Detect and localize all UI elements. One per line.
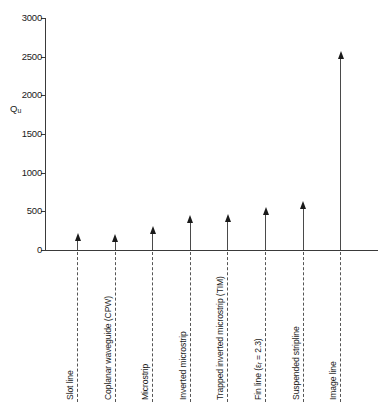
x-axis-line — [45, 250, 378, 251]
category-label-text-tail: = 2.3) — [253, 338, 263, 362]
category-label-subscript: r — [256, 362, 263, 364]
up-arrow-icon — [338, 51, 344, 59]
up-arrow-icon — [263, 207, 269, 215]
category-column: Inverted microstrip — [190, 0, 191, 408]
label-leader-line — [152, 252, 153, 402]
label-leader-line — [265, 252, 266, 402]
up-arrow-icon — [150, 226, 156, 234]
label-leader-line — [227, 252, 228, 402]
category-column: Trapped inverted microstrip (TIM) — [227, 0, 228, 408]
category-label: Trapped inverted microstrip (TIM) — [216, 276, 225, 400]
up-arrow-icon — [300, 201, 306, 209]
category-label: Microstrip — [141, 364, 150, 400]
up-arrow-icon — [225, 214, 231, 222]
label-leader-line — [340, 252, 341, 402]
y-tick-label: 2000 — [22, 90, 42, 100]
category-label: Inverted microstrip — [179, 331, 188, 400]
up-arrow-icon — [112, 234, 118, 242]
y-tick-label: 1000 — [22, 168, 42, 178]
category-label: Slot line — [66, 370, 75, 400]
y-tick-label: 0 — [37, 245, 42, 255]
category-column: Coplanar waveguide (CPW) — [115, 0, 116, 408]
category-label-text: Fin line (ε — [253, 364, 263, 400]
y-axis-title: Qu — [10, 104, 21, 116]
value-stem — [265, 214, 266, 250]
category-label: Suspended stripline — [292, 326, 301, 400]
category-label: Coplanar waveguide (CPW) — [104, 296, 113, 400]
up-arrow-icon — [187, 215, 193, 223]
value-stem — [115, 241, 116, 250]
category-column: Fin line (εr = 2.3) — [265, 0, 266, 408]
y-tick-label: 1500 — [22, 129, 42, 139]
chart-canvas: Qu 050010001500200025003000 Slot lineCop… — [0, 0, 385, 408]
y-tick-label: 3000 — [22, 13, 42, 23]
category-column: Slot line — [77, 0, 78, 408]
category-label: Image line — [329, 361, 338, 400]
y-axis-title-subscript: u — [17, 107, 21, 114]
value-stem — [303, 208, 304, 250]
value-stem — [77, 240, 78, 250]
value-stem — [190, 222, 191, 250]
label-leader-line — [77, 252, 78, 402]
value-stem — [152, 233, 153, 250]
label-leader-line — [115, 252, 116, 402]
up-arrow-icon — [75, 233, 81, 241]
category-column: Image line — [340, 0, 341, 408]
label-leader-line — [190, 252, 191, 402]
value-stem — [340, 58, 341, 250]
category-label: Fin line (εr = 2.3) — [254, 338, 264, 400]
label-leader-line — [303, 252, 304, 402]
value-stem — [227, 221, 228, 250]
y-tick-label: 2500 — [22, 52, 42, 62]
y-tick-label: 500 — [27, 206, 42, 216]
category-column: Suspended stripline — [303, 0, 304, 408]
category-column: Microstrip — [152, 0, 153, 408]
